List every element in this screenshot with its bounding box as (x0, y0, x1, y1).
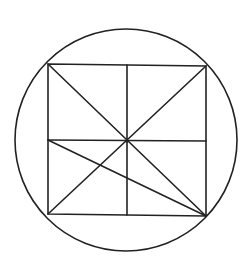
diagram-canvas (0, 0, 252, 265)
geometry-diagram (0, 0, 252, 265)
center-point (125, 139, 129, 143)
division-lines (48, 64, 206, 216)
